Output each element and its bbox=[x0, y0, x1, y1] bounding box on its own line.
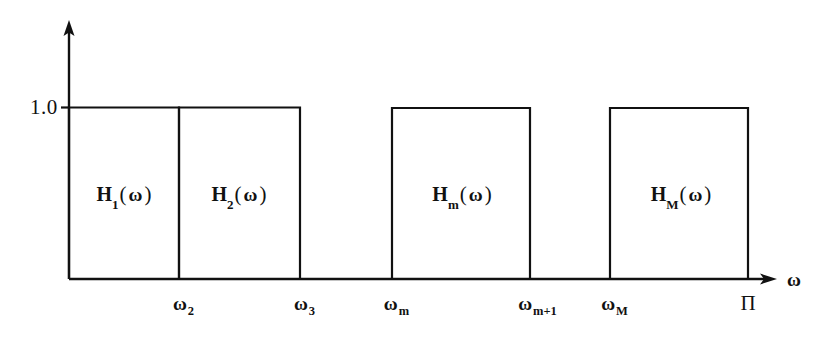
figure-canvas: 1.0 H1(ω) H2(ω) Hm(ω) HM(ω) ω2 ω3 ωm ωm+… bbox=[0, 0, 818, 340]
band-label-4-argument: ω bbox=[686, 184, 704, 205]
band-label-2-subscript: 2 bbox=[227, 197, 235, 212]
x-tick-label-omega-3: ω3 bbox=[294, 294, 314, 313]
x-tick-label-pi: Π bbox=[740, 293, 755, 314]
band-label-4-open-paren: ( bbox=[679, 182, 686, 206]
x-axis bbox=[69, 274, 777, 285]
band-label-4-close-paren: ) bbox=[704, 182, 711, 206]
band-label-1-name: H bbox=[97, 183, 113, 205]
x-tick-label-omega-2-base: ω bbox=[173, 293, 187, 314]
y-axis-amplitude-label: 1.0 bbox=[30, 97, 58, 118]
band-label-1-close-paren: ) bbox=[144, 182, 151, 206]
x-tick-label-omega-m-subscript: m bbox=[399, 304, 409, 318]
x-tick-label-omega-3-base: ω bbox=[294, 293, 308, 314]
band-label-3-subscript: m bbox=[448, 197, 460, 212]
x-tick-label-omega-m-base: ω bbox=[384, 293, 398, 314]
x-tick-label-omega-2-subscript: 2 bbox=[188, 304, 194, 318]
band-label-1-subscript: 1 bbox=[112, 197, 120, 212]
band-label-2-close-paren: ) bbox=[259, 182, 266, 206]
x-tick-label-omega-m-plus-1-subscript: m+1 bbox=[533, 304, 557, 318]
x-tick-label-omega-M: ωM bbox=[601, 294, 627, 313]
band-label-2-name: H bbox=[212, 183, 228, 205]
band-label-1-argument: ω bbox=[127, 184, 145, 205]
x-tick-label-omega-M-subscript: M bbox=[616, 304, 628, 318]
band-label-3-name: H bbox=[432, 183, 448, 205]
x-tick-label-omega-3-subscript: 3 bbox=[309, 304, 315, 318]
band-label-1: H1(ω) bbox=[97, 184, 152, 208]
band-label-4: HM(ω) bbox=[651, 184, 712, 208]
band-label-4-subscript: M bbox=[666, 197, 679, 212]
x-tick-label-omega-m: ωm bbox=[384, 294, 408, 313]
band-label-2-argument: ω bbox=[242, 184, 260, 205]
x-tick-label-omega-m-plus-1: ωm+1 bbox=[518, 294, 556, 313]
x-tick-label-omega-m-plus-1-base: ω bbox=[518, 293, 532, 314]
band-label-3: Hm(ω) bbox=[432, 184, 491, 208]
x-axis-name-label: ω bbox=[787, 270, 801, 289]
band-label-3-argument: ω bbox=[467, 184, 485, 205]
x-tick-label-omega-M-base: ω bbox=[601, 293, 615, 314]
x-tick-label-omega-2: ω2 bbox=[173, 294, 193, 313]
frequency-response-plot bbox=[0, 0, 818, 340]
band-label-3-close-paren: ) bbox=[485, 182, 492, 206]
band-label-2: H2(ω) bbox=[212, 184, 267, 208]
band-label-4-name: H bbox=[651, 183, 667, 205]
